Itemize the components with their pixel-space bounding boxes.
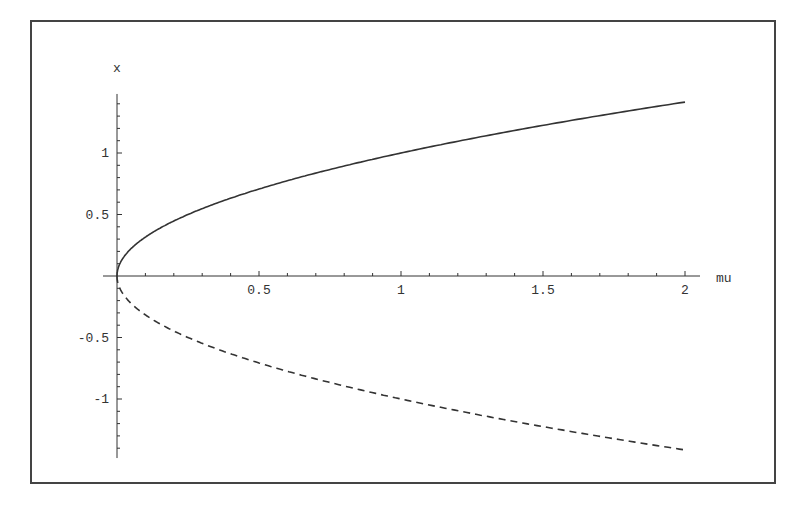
unstable-branch-curve bbox=[117, 276, 685, 450]
x-tick-label: 0.5 bbox=[247, 283, 270, 298]
bifurcation-plot: 0.511.5210.5-0.5-1 x mu bbox=[0, 0, 800, 507]
y-tick-label: 1 bbox=[101, 146, 109, 161]
x-tick-label: 2 bbox=[681, 283, 689, 298]
x-tick-label: 1.5 bbox=[531, 283, 554, 298]
y-tick-label: -1 bbox=[93, 392, 109, 407]
y-tick-label: 0.5 bbox=[86, 208, 109, 223]
stable-branch-curve bbox=[117, 102, 685, 276]
y-tick-label: -0.5 bbox=[78, 331, 109, 346]
x-tick-label: 1 bbox=[397, 283, 405, 298]
y-axis-label: x bbox=[113, 61, 121, 76]
x-axis-label: mu bbox=[716, 271, 732, 286]
